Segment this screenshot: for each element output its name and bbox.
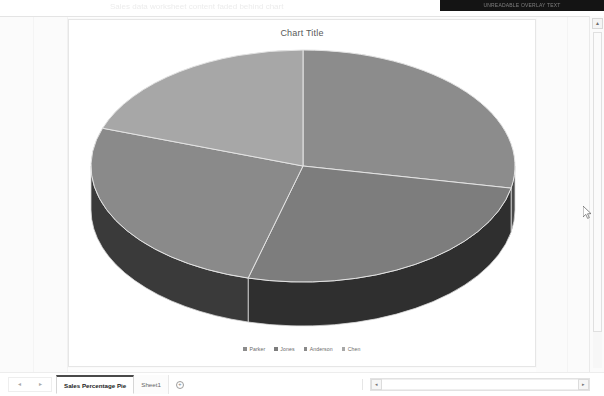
legend-item-label: Parker	[249, 346, 265, 352]
vertical-scrollbar-thumb[interactable]	[593, 32, 602, 332]
worksheet-column-ghost	[536, 17, 568, 373]
chart-legend[interactable]: ParkerJonesAndersonChen	[69, 346, 535, 352]
ghost-text-line1: Sales data worksheet content faded behin…	[110, 2, 283, 11]
triangle-up-icon: ▲	[595, 21, 600, 26]
legend-swatch-icon	[274, 347, 278, 351]
sheet-tab-sales-percentage-pie[interactable]: Sales Percentage Pie	[56, 375, 134, 394]
pie-slice-parker[interactable]	[303, 50, 515, 188]
legend-item[interactable]: Anderson	[304, 346, 333, 352]
legend-item[interactable]: Parker	[243, 346, 265, 352]
scroll-left-button[interactable]: ◂	[371, 379, 382, 390]
scrollbar-separator	[362, 379, 363, 390]
scroll-right-button[interactable]: ▸	[578, 379, 589, 390]
add-sheet-button[interactable]: +	[169, 375, 191, 394]
horizontal-scrollbar[interactable]: ◂ ▸	[370, 378, 590, 391]
scroll-up-button[interactable]: ▲	[592, 18, 603, 29]
legend-item-label: Chen	[348, 346, 361, 352]
triangle-right-icon: ▸	[582, 382, 585, 387]
legend-item-label: Jones	[280, 346, 294, 352]
legend-swatch-icon	[342, 347, 346, 351]
plus-icon: +	[176, 381, 184, 389]
prev-sheet-icon[interactable]: ◂	[18, 382, 21, 388]
vertical-scrollbar[interactable]: ▲	[589, 16, 604, 372]
sheet-tab-bar: ◂ ▸ Sales Percentage PieSheet1+ ◂ ▸	[0, 372, 604, 396]
chart-object[interactable]: Chart Title ParkerJonesAndersonChen	[68, 19, 536, 367]
triangle-left-icon: ◂	[375, 382, 378, 387]
pie-chart-plot-area[interactable]	[77, 42, 529, 332]
black-overlay-banner-text: UNREADABLE OVERLAY TEXT	[440, 0, 604, 11]
sheet-tabs[interactable]: Sales Percentage PieSheet1+	[56, 375, 191, 394]
page-top-strip: Sales data worksheet content faded behin…	[0, 0, 604, 16]
worksheet-column-ghost	[568, 17, 589, 373]
legend-item[interactable]: Chen	[342, 346, 361, 352]
legend-swatch-icon	[243, 347, 247, 351]
worksheet-column-ghost	[0, 17, 34, 373]
chart-title: Chart Title	[69, 28, 535, 38]
pie-chart-svg	[77, 42, 529, 332]
horizontal-scrollbar-track[interactable]	[382, 379, 578, 390]
worksheet-column-ghost	[34, 17, 68, 373]
black-overlay-banner: UNREADABLE OVERLAY TEXT	[440, 0, 604, 11]
sheet-navigation-buttons[interactable]: ◂ ▸	[8, 377, 52, 392]
legend-item[interactable]: Jones	[274, 346, 294, 352]
legend-swatch-icon	[304, 347, 308, 351]
sheet-tab-sheet1[interactable]: Sheet1	[134, 375, 169, 394]
vertical-scrollbar-track[interactable]	[593, 32, 602, 368]
pie-top-faces	[91, 50, 515, 282]
legend-item-label: Anderson	[310, 346, 333, 352]
worksheet-canvas[interactable]: Chart Title ParkerJonesAndersonChen	[0, 16, 604, 372]
next-sheet-icon[interactable]: ▸	[39, 382, 42, 388]
